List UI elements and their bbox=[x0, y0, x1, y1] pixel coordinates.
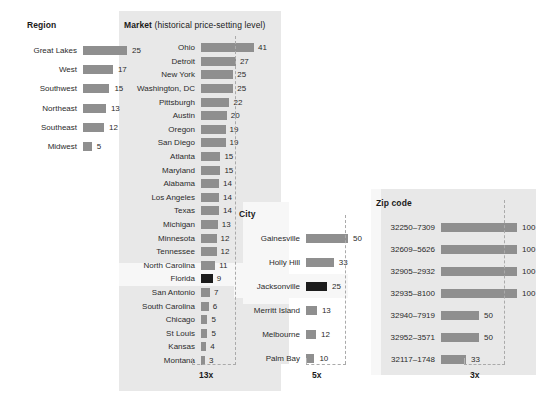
bar-value-label: 25 bbox=[332, 282, 341, 291]
bar-row[interactable]: Gainesville50 bbox=[234, 226, 348, 250]
bar bbox=[441, 245, 517, 254]
bar-value-label: 100 bbox=[522, 223, 535, 232]
bar-row[interactable]: Pittsburgh22 bbox=[119, 95, 254, 109]
bar-row[interactable]: Alabama14 bbox=[119, 177, 254, 191]
bar-row-label: Southeast bbox=[0, 123, 83, 132]
bar-row-label: Tennessee bbox=[119, 247, 201, 256]
bar-track: 22 bbox=[201, 98, 254, 107]
bar-value-label: 100 bbox=[522, 289, 535, 298]
bar bbox=[201, 111, 227, 120]
bar-row-label: Southwest bbox=[0, 84, 83, 93]
bar-row[interactable]: 32952–357150 bbox=[371, 326, 517, 348]
bar-track: 25 bbox=[306, 282, 348, 291]
bar-row-label: New York bbox=[119, 70, 201, 79]
bar bbox=[83, 142, 92, 151]
bar-value-label: 19 bbox=[230, 138, 239, 147]
bar-row-label: Texas bbox=[119, 206, 201, 215]
bar-row-label: Los Angeles bbox=[119, 193, 201, 202]
bar-row[interactable]: Maryland15 bbox=[119, 163, 254, 177]
city-panel: City Gainesville50Holly Hill33Jacksonvil… bbox=[234, 202, 344, 387]
bar-row[interactable]: Palm Bay10 bbox=[234, 346, 348, 370]
bar-row-label: Austin bbox=[119, 111, 201, 120]
bar-row[interactable]: Ohio41 bbox=[119, 41, 254, 55]
bar-row-label: North Carolina bbox=[119, 261, 201, 270]
bar-row[interactable]: 32250–7309100 bbox=[371, 216, 517, 238]
bar-row-label: Midwest bbox=[0, 142, 83, 151]
bar-row[interactable]: 32940–791950 bbox=[371, 304, 517, 326]
bar-row[interactable]: 32935–8100100 bbox=[371, 282, 517, 304]
bar-value-label: 9 bbox=[217, 274, 221, 283]
bar-row[interactable]: Holly Hill33 bbox=[234, 250, 348, 274]
bar-row[interactable]: Melbourne12 bbox=[234, 322, 348, 346]
bar bbox=[201, 342, 206, 351]
bar-track: 100 bbox=[441, 223, 517, 232]
bar-row[interactable]: Atlanta15 bbox=[119, 150, 254, 164]
market-scale-line-right bbox=[235, 36, 236, 365]
bar-row-label: Minnesota bbox=[119, 234, 201, 243]
bar-row[interactable]: 32905–2932100 bbox=[371, 260, 517, 282]
region-rows: Great Lakes25West17Southwest15Northeast1… bbox=[0, 41, 127, 156]
bar-row-label: 32905–2932 bbox=[375, 267, 441, 276]
bar-row[interactable]: Southeast12 bbox=[0, 118, 127, 137]
bar-track: 41 bbox=[201, 43, 254, 52]
bar-row-label: 32935–8100 bbox=[375, 289, 441, 298]
bar-row[interactable]: West17 bbox=[0, 60, 127, 79]
bar-row[interactable]: Jacksonville25 bbox=[234, 274, 348, 298]
bar-value-label: 100 bbox=[522, 245, 535, 254]
bar-value-label: 50 bbox=[353, 234, 362, 243]
bar-track: 14 bbox=[201, 179, 254, 188]
bar-value-label: 5 bbox=[97, 142, 101, 151]
bar-row[interactable]: Oregon19 bbox=[119, 123, 254, 137]
bar bbox=[441, 311, 479, 320]
bar-row[interactable]: 32609–5626100 bbox=[371, 238, 517, 260]
bar-track: 100 bbox=[441, 289, 517, 298]
bar-value-label: 11 bbox=[219, 261, 227, 270]
bar-track: 100 bbox=[441, 267, 517, 276]
bar-row-label: Merritt Island bbox=[234, 306, 306, 315]
bar bbox=[201, 152, 220, 161]
bar-value-label: 33 bbox=[471, 355, 480, 364]
bar bbox=[201, 138, 226, 147]
region-panel: Region Great Lakes25West17Southwest15Nor… bbox=[0, 0, 119, 399]
bar bbox=[441, 333, 479, 342]
zip-panel-title: Zip code bbox=[376, 198, 412, 208]
bar-row-label: Jacksonville bbox=[234, 282, 306, 291]
bar-value-label: 12 bbox=[221, 234, 230, 243]
bar-row-label: San Antonio bbox=[119, 288, 201, 297]
bar-row[interactable]: 32117–174833 bbox=[371, 348, 517, 370]
bar-row[interactable]: Austin20 bbox=[119, 109, 254, 123]
bar-row[interactable]: Merritt Island13 bbox=[234, 298, 348, 322]
bar-value-label: 10 bbox=[319, 354, 328, 363]
bar-row[interactable]: Detroit27 bbox=[119, 55, 254, 69]
bar-value-label: 14 bbox=[223, 193, 232, 202]
bar-row-label: Chicago bbox=[119, 315, 201, 324]
bar-row-label: Melbourne bbox=[234, 330, 306, 339]
city-rows: Gainesville50Holly Hill33Jacksonville25M… bbox=[234, 226, 348, 370]
bar-track: 14 bbox=[201, 193, 254, 202]
bar bbox=[201, 57, 236, 66]
bar-row-label: Ohio bbox=[119, 43, 201, 52]
bar-track: 27 bbox=[201, 57, 254, 66]
bar-row[interactable]: Southwest15 bbox=[0, 79, 127, 98]
bar-track: 12 bbox=[306, 330, 348, 339]
bar-row[interactable]: Washington, DC25 bbox=[119, 82, 254, 96]
city-scale-tick-left bbox=[306, 358, 307, 364]
bar-track: 50 bbox=[441, 311, 517, 320]
bar-row[interactable]: San Diego19 bbox=[119, 136, 254, 150]
bar-row[interactable]: Northeast13 bbox=[0, 99, 127, 118]
bar bbox=[201, 220, 218, 229]
bar bbox=[201, 274, 213, 283]
bar-value-label: 50 bbox=[484, 333, 493, 342]
bar bbox=[201, 166, 220, 175]
bar-row[interactable]: New York25 bbox=[119, 68, 254, 82]
bar-track: 10 bbox=[306, 354, 348, 363]
bar-row[interactable]: Midwest5 bbox=[0, 137, 127, 156]
bar bbox=[201, 125, 226, 134]
bar bbox=[306, 282, 327, 291]
bar bbox=[201, 288, 210, 297]
market-multiplier-label: 13x bbox=[199, 370, 213, 380]
zip-rows: 32250–730910032609–562610032905–29321003… bbox=[371, 216, 517, 370]
bar-row-label: Michigan bbox=[119, 220, 201, 229]
bar-row[interactable]: Great Lakes25 bbox=[0, 41, 127, 60]
bar-track: 25 bbox=[201, 70, 254, 79]
